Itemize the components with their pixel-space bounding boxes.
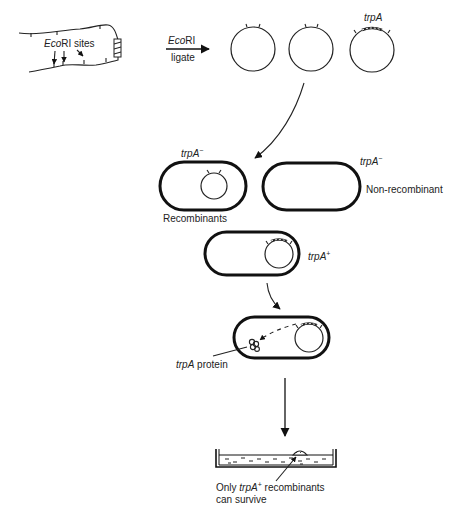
non-recombinant-label: Non-recombinant xyxy=(366,184,443,195)
trpa-positive-label: trpA+ xyxy=(308,250,330,262)
non-recombinant-genotype-label: trpA− xyxy=(360,155,382,167)
arrow-site-3 xyxy=(77,50,83,56)
ligate-label: ligate xyxy=(171,52,195,63)
ecori-enzyme-label: EcoRI xyxy=(168,35,195,46)
non-recombinant-cell xyxy=(263,163,360,210)
ecori-sites-label: EcoRI sites xyxy=(44,38,95,49)
transform-arrow xyxy=(255,83,304,158)
trpa-positive-cell-plasmid xyxy=(265,240,293,269)
recombinants-label: Recombinants xyxy=(163,213,227,224)
arrow-site-1 xyxy=(54,51,55,64)
plasmid-trpa-label: trpA xyxy=(364,12,383,23)
survivors-label-line1: Only trpA+ recombinants xyxy=(216,481,325,493)
trpa-protein-label: trpA protein xyxy=(176,359,228,370)
diagram-canvas: EcoRI sites EcoRI ligate trpA trpA− Reco… xyxy=(0,0,460,516)
survivors-label-line2: can survive xyxy=(216,494,267,505)
expressing-cell-plasmid xyxy=(295,324,323,353)
colony-pointer-arrow xyxy=(276,457,296,481)
plasmid-with-trpa xyxy=(350,28,394,72)
petri-plate xyxy=(216,449,336,467)
expression-arrow xyxy=(267,283,280,309)
plasmid-1 xyxy=(231,24,275,71)
plasmid-2 xyxy=(289,24,333,71)
recombinant-genotype-label: trpA− xyxy=(181,147,203,159)
